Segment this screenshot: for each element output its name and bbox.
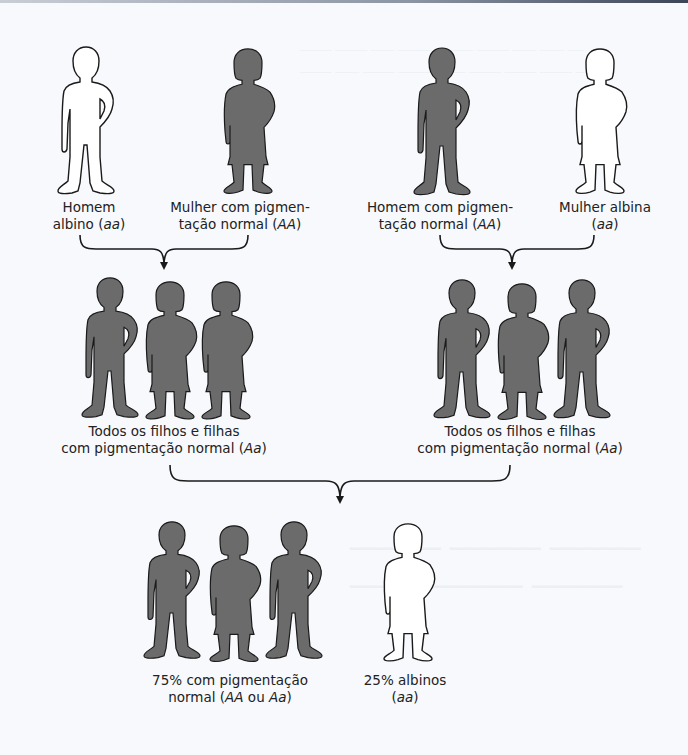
f2-pigmented-female <box>210 526 261 662</box>
parent-male-albino-left <box>58 47 114 194</box>
f1-left-daughter-2 <box>202 282 253 419</box>
label-f1-left: Todos os filhos e filhas com pigmentação… <box>44 423 284 457</box>
f1-right-daughter <box>498 284 549 420</box>
label-parent-male-albino-left: Homem albino (aa) <box>45 199 133 233</box>
f2-albino-female <box>384 524 435 661</box>
label-parent-female-albino-right: Mulher albina (aa) <box>540 199 670 233</box>
f1-right-son-1 <box>434 280 490 418</box>
brace-f1-cross <box>170 465 510 504</box>
parent-female-albino-right <box>576 49 627 193</box>
f1-left-son <box>82 278 138 417</box>
label-parent-female-pigmented-left: Mulher com pigmen- tação normal (AA) <box>150 199 330 233</box>
f2-pigmented-male-1 <box>144 522 200 658</box>
label-f2-albino: 25% albinos (aa) <box>350 672 460 706</box>
parent-male-pigmented-right <box>414 48 470 195</box>
brace-right-parents <box>440 235 594 270</box>
label-parent-male-pigmented-right: Homem com pigmen- tação normal (AA) <box>350 199 530 233</box>
parent-female-pigmented-left <box>224 49 275 193</box>
brace-left-parents <box>80 235 248 270</box>
label-f1-right: Todos os filhos e filhas com pigmentação… <box>400 423 640 457</box>
f1-right-son-2 <box>554 280 610 418</box>
f2-pigmented-male-2 <box>266 522 322 658</box>
label-f2-pigmented: 75% com pigmentação normal (AA ou Aa) <box>130 672 330 706</box>
pedigree-diagram <box>0 0 688 755</box>
f1-left-daughter-1 <box>146 282 197 419</box>
